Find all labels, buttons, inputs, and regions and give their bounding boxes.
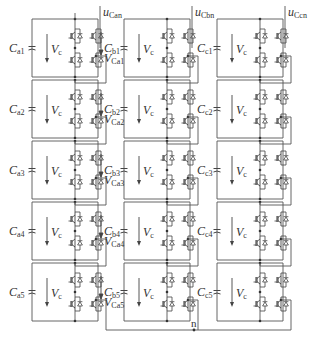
vc-label-b2: Vc xyxy=(143,104,154,116)
h-bridge-cell-b1 xyxy=(121,18,196,79)
h-bridge-cell-a1 xyxy=(29,18,104,79)
vca-label-3: VCa3 xyxy=(104,174,124,186)
h-bridge-cell-a3 xyxy=(29,140,104,201)
cap-label-c1: Cc1 xyxy=(197,42,213,54)
vc-label-a1: Vc xyxy=(51,43,62,55)
h-bridge-cell-c4 xyxy=(214,201,289,262)
phase-c-column xyxy=(214,18,289,323)
cap-label-c3: Cc3 xyxy=(197,164,213,176)
cap-label-c4: Cc4 xyxy=(197,225,213,237)
cap-label-a3: Ca3 xyxy=(9,164,25,176)
neutral-label: n xyxy=(191,318,197,329)
h-bridge-cell-b4 xyxy=(121,201,196,262)
vc-label-a3: Vc xyxy=(51,165,62,177)
vc-label-a5: Vc xyxy=(51,287,62,299)
h-bridge-cell-b3 xyxy=(121,140,196,201)
vc-label-a4: Vc xyxy=(51,226,62,238)
h-bridge-cell-c5 xyxy=(214,262,289,323)
h-bridge-cell-c1 xyxy=(214,18,289,79)
h-bridge-cell-b2 xyxy=(121,79,196,140)
vc-label-a2: Vc xyxy=(51,104,62,116)
cap-label-a4: Ca4 xyxy=(9,225,25,237)
phase-b-column xyxy=(121,18,196,323)
phase-a-output-label: uCan xyxy=(103,6,122,18)
cap-label-c2: Cc2 xyxy=(197,103,213,115)
phase-c-output-label: uCcn xyxy=(288,6,307,18)
vc-label-b4: Vc xyxy=(143,226,154,238)
vc-label-c3: Vc xyxy=(236,165,247,177)
vca-label-2: VCa2 xyxy=(104,113,124,125)
cap-label-a5: Ca5 xyxy=(9,286,25,298)
cap-label-a1: Ca1 xyxy=(9,42,25,54)
vc-label-c1: Vc xyxy=(236,43,247,55)
h-bridge-cell-a4 xyxy=(29,201,104,262)
vca-arrows xyxy=(99,32,103,299)
vc-label-b3: Vc xyxy=(143,165,154,177)
vc-label-c2: Vc xyxy=(236,104,247,116)
cap-label-c5: Cc5 xyxy=(197,286,213,298)
phase-a-column xyxy=(29,18,104,323)
h-bridge-cell-c3 xyxy=(214,140,289,201)
phase-b-output-label: uCbn xyxy=(195,6,214,18)
cap-label-a2: Ca2 xyxy=(9,103,25,115)
h-bridge-cell-c2 xyxy=(214,79,289,140)
vca-label-4: VCa4 xyxy=(104,235,124,247)
vca-label-5: VCa5 xyxy=(104,296,124,308)
cascaded-h-bridge-diagram xyxy=(0,0,314,343)
h-bridge-cell-a2 xyxy=(29,79,104,140)
vca-label-1: VCa1 xyxy=(104,52,124,64)
h-bridge-cell-a5 xyxy=(29,262,104,323)
vc-label-b1: Vc xyxy=(143,43,154,55)
vc-label-c5: Vc xyxy=(236,287,247,299)
neutral-node-dot xyxy=(193,329,196,332)
vc-label-c4: Vc xyxy=(236,226,247,238)
vc-label-b5: Vc xyxy=(143,287,154,299)
h-bridge-cell-b5 xyxy=(121,262,196,323)
